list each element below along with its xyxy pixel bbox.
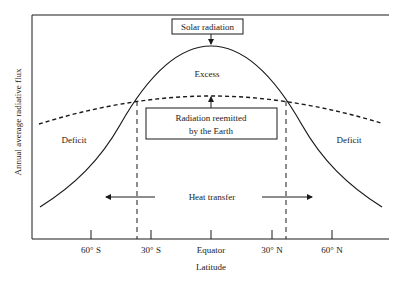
- x-ticks: [91, 230, 332, 239]
- x-tick-labels: 60° S 30° S Equator 30° N 60° N: [81, 245, 343, 255]
- reemitted-label-line2: by the Earth: [189, 126, 233, 136]
- y-axis-title: Annual average radiative flux: [13, 68, 23, 176]
- reemitted-label-line1: Radiation reemitted: [175, 113, 247, 123]
- reemitted-radiation-box: Radiation reemitted by the Earth: [146, 108, 277, 139]
- radiation-balance-diagram: Solar radiation Excess Radiation reemitt…: [0, 0, 404, 283]
- solar-radiation-box: Solar radiation: [172, 19, 243, 34]
- x-axis-title: Latitude: [196, 262, 226, 272]
- tick-label-60n: 60° N: [321, 245, 343, 255]
- heat-transfer-label: Heat transfer: [189, 192, 236, 202]
- tick-label-30s: 30° S: [141, 245, 161, 255]
- tick-label-30n: 30° N: [261, 245, 283, 255]
- deficit-left-label: Deficit: [62, 135, 87, 145]
- tick-label-60s: 60° S: [81, 245, 101, 255]
- deficit-right-label: Deficit: [337, 135, 362, 145]
- solar-radiation-label: Solar radiation: [181, 22, 235, 32]
- excess-label: Excess: [195, 69, 220, 79]
- tick-label-equator: Equator: [197, 245, 226, 255]
